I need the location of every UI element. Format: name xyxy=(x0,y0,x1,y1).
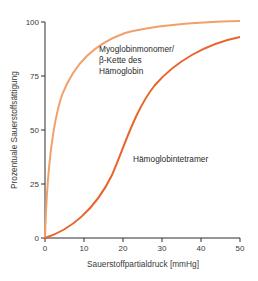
myoglobin-annotation: Myoglobinmonomer/ β-Kette des Hämoglobin xyxy=(99,44,175,76)
x-tick-40: 40 xyxy=(197,244,206,253)
y-ticks xyxy=(41,22,45,238)
y-tick-labels: 100 75 50 25 0 xyxy=(26,18,40,243)
x-tick-30: 30 xyxy=(158,244,167,253)
y-tick-100: 100 xyxy=(26,18,40,27)
myoglobin-label-line2: β-Kette des xyxy=(99,55,142,65)
x-tick-50: 50 xyxy=(236,244,245,253)
y-tick-25: 25 xyxy=(30,180,39,189)
hemoglobin-annotation: Hämoglobintetramer xyxy=(133,154,208,164)
myoglobin-label-line1: Myoglobinmonomer/ xyxy=(99,44,175,54)
y-axis-title: Prozentuale Sauerstoffsättigung xyxy=(9,71,19,189)
x-tick-10: 10 xyxy=(80,244,89,253)
x-axis-title: Sauerstoffpartialdruck [mmHg] xyxy=(87,259,199,269)
x-tick-0: 0 xyxy=(43,244,48,253)
x-tick-20: 20 xyxy=(119,244,128,253)
myoglobin-label-line3: Hämoglobin xyxy=(99,66,144,76)
y-tick-0: 0 xyxy=(35,234,40,243)
y-tick-50: 50 xyxy=(30,126,39,135)
chart: 100 75 50 25 0 0 10 20 30 40 50 Sauersto… xyxy=(0,0,258,281)
x-ticks xyxy=(45,238,240,242)
x-tick-labels: 0 10 20 30 40 50 xyxy=(43,244,245,253)
y-tick-75: 75 xyxy=(30,72,39,81)
